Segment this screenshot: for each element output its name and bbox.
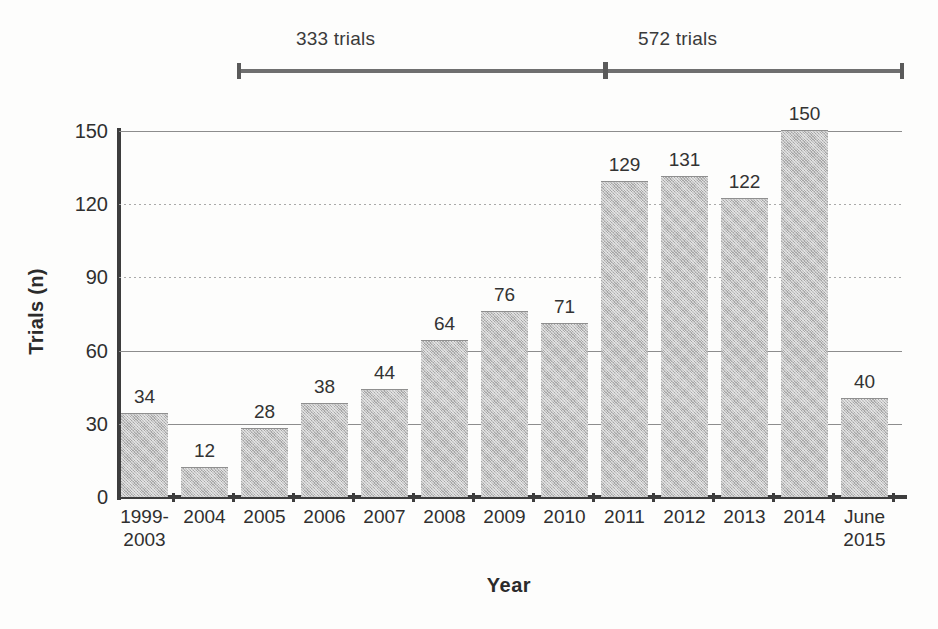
y-tick-label-60: 60 <box>48 339 108 362</box>
bracket-divider-tick <box>603 62 608 79</box>
bracket-cap-right <box>900 63 904 79</box>
x-axis-title-text: Year <box>487 574 531 596</box>
x-tick-label: June 2015 <box>823 505 907 551</box>
bar-value-label: 28 <box>230 401 300 423</box>
bar <box>661 176 708 497</box>
y-tick-label-30: 30 <box>48 412 108 435</box>
bar-value-label: 12 <box>170 440 240 462</box>
x-axis-tick <box>652 493 655 502</box>
group-label-left: 333 trials <box>296 28 375 50</box>
bracket-rail <box>237 69 904 73</box>
x-axis-tick <box>412 493 415 502</box>
bar <box>421 340 468 497</box>
bar-value-label: 131 <box>650 149 720 171</box>
x-axis-tick <box>352 493 355 502</box>
bar-value-label: 71 <box>530 296 600 318</box>
y-tick-label-0: 0 <box>48 486 108 509</box>
bar <box>361 389 408 497</box>
x-axis-tick <box>532 493 535 502</box>
bar-value-label: 122 <box>710 171 780 193</box>
x-axis-tick <box>472 493 475 502</box>
bar <box>601 181 648 497</box>
y-tick-label-150: 150 <box>48 120 108 143</box>
x-axis-tick <box>292 493 295 502</box>
x-axis-tick <box>592 493 595 502</box>
bar <box>781 130 828 497</box>
x-axis-tick <box>892 493 895 502</box>
y-tick-label-90: 90 <box>48 266 108 289</box>
bar <box>181 467 228 497</box>
group-bracket <box>237 63 904 79</box>
bar <box>841 398 888 497</box>
x-axis-tick <box>712 493 715 502</box>
y-axis-ticks: 0306090120150 <box>46 131 108 497</box>
x-axis-tick <box>772 493 775 502</box>
bar <box>241 428 288 497</box>
x-axis-tick <box>232 493 235 502</box>
bar-value-label: 34 <box>110 386 180 408</box>
bar <box>721 198 768 497</box>
plot-area: 341228384464767112913112215040 <box>119 131 902 497</box>
group-label-right: 572 trials <box>638 28 717 50</box>
bar <box>121 413 168 497</box>
bar-value-label: 64 <box>410 313 480 335</box>
bar <box>481 311 528 497</box>
y-tick-label-120: 120 <box>48 193 108 216</box>
y-axis-title: Trials (n) <box>25 252 48 372</box>
x-axis-title: Year <box>0 574 938 597</box>
bar-value-label: 40 <box>830 371 900 393</box>
x-axis-tick <box>832 493 835 502</box>
bar <box>541 323 588 497</box>
bar <box>301 403 348 497</box>
bracket-cap-left <box>237 63 241 79</box>
chart-page: 333 trials 572 trials Trials (n) Year 03… <box>0 0 938 629</box>
bar-value-label: 44 <box>350 362 420 384</box>
x-axis-tick <box>172 493 175 502</box>
bar-value-label: 150 <box>770 103 840 125</box>
